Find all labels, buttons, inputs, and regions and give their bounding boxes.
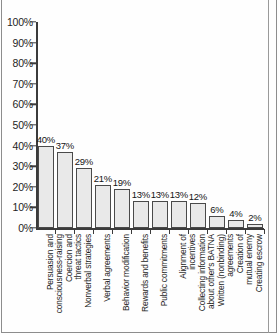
bar-slot: 37% bbox=[55, 22, 74, 228]
bar-value-label: 6% bbox=[210, 204, 223, 215]
bar-value-label: 4% bbox=[229, 208, 242, 219]
bar-value-label: 40% bbox=[37, 134, 55, 145]
bar-value-label: 12% bbox=[189, 191, 207, 202]
bar[interactable] bbox=[228, 220, 244, 228]
bar[interactable] bbox=[209, 216, 225, 228]
x-axis-category-label: Rewards and benefits bbox=[131, 234, 150, 335]
bar-slot: 19% bbox=[112, 22, 131, 228]
bar-slot: 2% bbox=[245, 22, 264, 228]
bar-slot: 13% bbox=[150, 22, 169, 228]
x-axis-tick-mark bbox=[74, 229, 75, 234]
bar-slot: 40% bbox=[36, 22, 55, 228]
bar-slot: 4% bbox=[226, 22, 245, 228]
category-label-line: Rewards and benefits bbox=[140, 234, 150, 312]
x-axis-tick-mark bbox=[188, 229, 189, 234]
x-axis-category-label: Collecting informationabout other's BATN… bbox=[188, 234, 207, 335]
bar[interactable] bbox=[114, 189, 130, 228]
x-axis-category-label: Nonverbal strategies bbox=[74, 234, 93, 335]
bar[interactable] bbox=[247, 224, 263, 228]
x-axis-tick-mark bbox=[150, 229, 151, 234]
category-label-line: Behavior modification bbox=[121, 234, 131, 311]
bar-slot: 29% bbox=[74, 22, 93, 228]
category-label-line: Public commitments bbox=[159, 234, 169, 306]
x-axis-tick-mark bbox=[207, 229, 208, 234]
x-axis-category-label: Creation ofmutual enemy bbox=[226, 234, 245, 335]
x-axis-tick-mark bbox=[112, 229, 113, 234]
x-axis-tick-mark bbox=[245, 229, 246, 234]
bar-slot: 6% bbox=[207, 22, 226, 228]
category-label-line: Nonverbal strategies bbox=[83, 234, 93, 308]
category-label-line: Creating escrow bbox=[254, 234, 264, 292]
bar-value-label: 13% bbox=[132, 189, 150, 200]
x-axis-category-label: Written (nonbinding)agreements bbox=[207, 234, 226, 335]
bar[interactable] bbox=[171, 201, 187, 228]
x-axis-tick-mark bbox=[55, 229, 56, 234]
x-axis-tick-mark bbox=[131, 229, 132, 234]
x-axis-category-labels: Persuasion andconsciousness-raisingCoerc… bbox=[36, 234, 264, 335]
category-label-line: Creation of bbox=[235, 234, 245, 273]
bar-value-label: 13% bbox=[170, 189, 188, 200]
x-axis-tick-mark bbox=[93, 229, 94, 234]
x-axis-category-label: Creating escrow bbox=[245, 234, 264, 335]
category-label-line: Persuasion and bbox=[45, 234, 55, 290]
x-axis-category-label: Behavior modification bbox=[112, 234, 131, 335]
category-label-line: Written (nonbinding) bbox=[216, 234, 226, 306]
bar-value-label: 2% bbox=[248, 212, 261, 223]
bar-value-label: 19% bbox=[113, 177, 131, 188]
bar-chart-figure: 100%90%80%70%60%50%40%30%20%10%0% 40%37%… bbox=[0, 0, 279, 335]
bar-value-label: 21% bbox=[94, 173, 112, 184]
bar-slot: 13% bbox=[131, 22, 150, 228]
x-axis-category-label: Verbal agreements bbox=[93, 234, 112, 335]
category-label-line: Verbal agreements bbox=[102, 234, 112, 302]
category-label-line: Alignment of bbox=[178, 234, 188, 279]
x-axis-tick-mark bbox=[169, 229, 170, 234]
figure-frame-right-rule bbox=[268, 0, 269, 333]
x-axis-tick-mark bbox=[226, 229, 227, 234]
bar[interactable] bbox=[57, 152, 73, 228]
bar[interactable] bbox=[190, 203, 206, 228]
bar-series: 40%37%29%21%19%13%13%13%12%6%4%2% bbox=[36, 22, 264, 228]
bar-value-label: 37% bbox=[56, 140, 74, 151]
y-axis-tick-labels: 100%90%80%70%60%50%40%30%20%10%0% bbox=[0, 0, 33, 335]
bar[interactable] bbox=[95, 185, 111, 228]
x-axis-tick-mark bbox=[264, 229, 265, 234]
bar[interactable] bbox=[76, 168, 92, 228]
bar-value-label: 13% bbox=[151, 189, 169, 200]
bar-slot: 12% bbox=[188, 22, 207, 228]
x-axis-category-label: Public commitments bbox=[150, 234, 169, 335]
bar-slot: 13% bbox=[169, 22, 188, 228]
category-label-line: Coercion and bbox=[64, 234, 74, 282]
bar-slot: 21% bbox=[93, 22, 112, 228]
x-axis-category-label: Persuasion andconsciousness-raising bbox=[36, 234, 55, 335]
bar-value-label: 29% bbox=[75, 156, 93, 167]
x-axis-category-label: Coercion andthreat tactics bbox=[55, 234, 74, 335]
bar[interactable] bbox=[152, 201, 168, 228]
category-label-line: Collecting information bbox=[197, 234, 207, 311]
bar[interactable] bbox=[38, 146, 54, 228]
bar[interactable] bbox=[133, 201, 149, 228]
x-axis-category-label: Alignment ofincentives bbox=[169, 234, 188, 335]
